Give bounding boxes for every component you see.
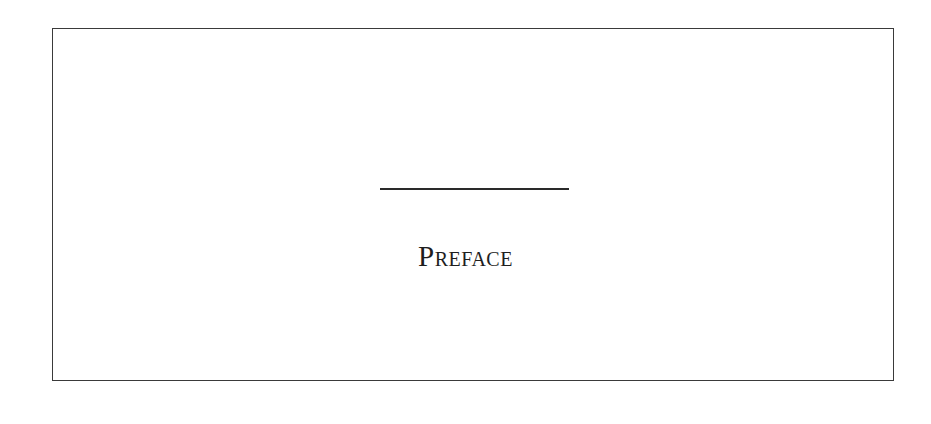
section-heading: Preface	[0, 238, 931, 274]
page-frame	[52, 28, 894, 381]
horizontal-rule	[380, 188, 569, 190]
